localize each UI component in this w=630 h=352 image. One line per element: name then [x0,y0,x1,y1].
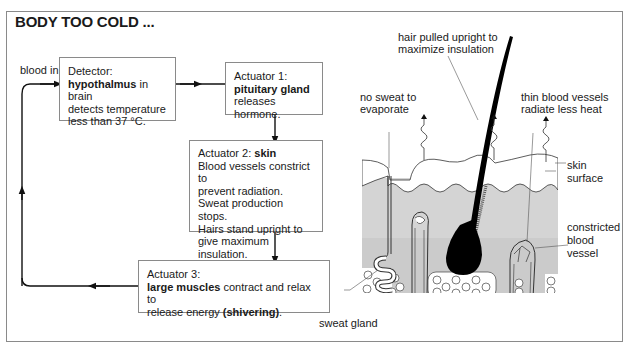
skin-surface-label-line2: surface [567,172,603,185]
no-sweat-label-line2: evaporate [360,103,409,116]
sweat-gland-label: sweat gland [319,317,378,330]
constricted-label-line3: vessel [567,247,598,260]
skin-surface-label-line1: skin [567,159,587,172]
skin-cross-section [0,0,630,352]
hair-label-line1: hair pulled upright to [398,31,498,44]
constricted-label-line2: blood [567,234,594,247]
hair-label-line2: maximize insulation [398,43,494,56]
constricted-label-line1: constricted [567,221,620,234]
thin-vessels-label-line1: thin blood vessels [521,91,608,104]
thin-vessels-label-line2: radiate less heat [521,103,602,116]
no-sweat-label-line1: no sweat to [360,91,416,104]
